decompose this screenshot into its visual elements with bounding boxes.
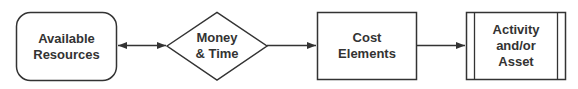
cost-elements-label: Cost Elements [317, 12, 417, 80]
money-time-label: Money & Time [167, 12, 267, 80]
label-line: Resources [33, 47, 99, 63]
label-line: Money [196, 30, 237, 46]
label-line: & Time [195, 46, 238, 62]
available-resources-label: Available Resources [16, 12, 117, 81]
label-line: Elements [338, 46, 396, 62]
activity-asset-label: Activity and/or Asset [475, 12, 557, 80]
label-line: and/or [496, 38, 536, 54]
label-line: Activity [493, 22, 540, 38]
label-line: Cost [353, 30, 382, 46]
label-line: Asset [498, 54, 533, 70]
label-line: Available [38, 31, 95, 47]
